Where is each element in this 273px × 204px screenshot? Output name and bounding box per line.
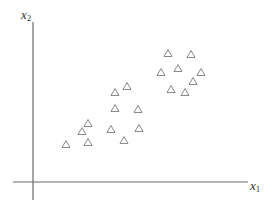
x-axis-label-subscript: 1	[256, 184, 261, 194]
triangle-marker-icon	[107, 126, 115, 133]
triangle-marker-icon	[187, 51, 195, 58]
triangle-marker-icon	[174, 65, 182, 72]
triangle-marker-icon	[111, 89, 119, 96]
triangle-marker-icon	[157, 69, 165, 76]
triangle-marker-icon	[62, 141, 70, 148]
triangle-marker-icon	[181, 89, 189, 96]
y-axis-label-subscript: 2	[27, 13, 32, 23]
data-points-group	[62, 50, 205, 148]
triangle-marker-icon	[120, 137, 128, 144]
triangle-marker-icon	[111, 105, 119, 112]
triangle-marker-icon	[167, 86, 175, 93]
triangle-marker-icon	[164, 50, 172, 57]
triangle-marker-icon	[78, 128, 86, 135]
triangle-marker-icon	[189, 78, 197, 85]
triangle-marker-icon	[134, 106, 142, 113]
triangle-marker-icon	[84, 120, 92, 127]
triangle-marker-icon	[135, 125, 143, 132]
triangle-marker-icon	[84, 139, 92, 146]
triangle-marker-icon	[197, 69, 205, 76]
scatter-plot	[0, 0, 273, 204]
x-axis-label: x1	[250, 179, 260, 194]
triangle-marker-icon	[123, 83, 131, 90]
y-axis-label: x2	[21, 8, 31, 23]
